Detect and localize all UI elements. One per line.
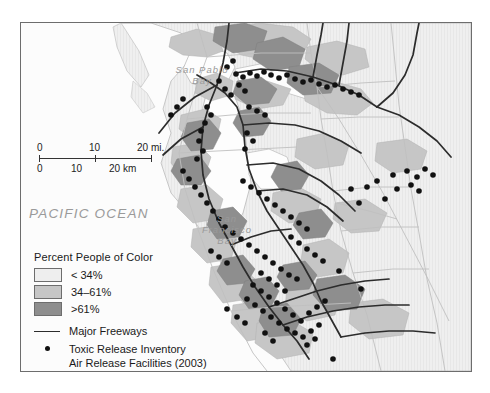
legend-label-high: >61% — [71, 303, 99, 315]
legend-facility-entry: Toxic Release Inventory Air Release Faci… — [34, 343, 249, 370]
scale-mi-0: 0 — [37, 142, 43, 153]
scale-km-0: 0 — [37, 163, 43, 174]
map-legend: Percent People of Color < 34% 34–61% >61… — [34, 251, 249, 370]
scale-bar-line — [37, 155, 161, 162]
scale-km-labels: 0 10 20 km — [37, 163, 161, 177]
freeway-line-icon — [34, 331, 60, 332]
legend-class-mid: 34–61% — [34, 285, 249, 299]
legend-freeway-entry: Major Freeways — [34, 325, 249, 337]
legend-class-low: < 34% — [34, 268, 249, 282]
map-figure: PACIFIC OCEAN San Pablo Bay San Francisc… — [0, 0, 490, 393]
legend-label-freeway: Major Freeways — [69, 325, 147, 337]
facility-dot-icon — [34, 343, 60, 351]
legend-label-low: < 34% — [71, 269, 103, 281]
scale-mi-10: 10 — [89, 142, 100, 153]
legend-class-high: >61% — [34, 302, 249, 316]
legend-facility-line1: Toxic Release Inventory — [69, 343, 186, 355]
scale-mi-20: 20 mi. — [137, 142, 164, 153]
legend-swatch-mid — [34, 285, 62, 299]
scale-bar: 0 10 20 mi. 0 10 20 km — [37, 142, 161, 177]
legend-label-facility: Toxic Release Inventory Air Release Faci… — [69, 343, 207, 370]
scale-miles-labels: 0 10 20 mi. — [37, 142, 161, 155]
scale-km-20: 20 km — [109, 163, 136, 174]
legend-swatch-high — [34, 302, 62, 316]
scale-km-10: 10 — [71, 163, 82, 174]
legend-title: Percent People of Color — [34, 251, 249, 263]
legend-swatch-low — [34, 268, 62, 282]
map-frame: PACIFIC OCEAN San Pablo Bay San Francisc… — [20, 22, 472, 372]
legend-facility-line2: Air Release Facilities (2003) — [69, 357, 207, 369]
legend-label-mid: 34–61% — [71, 286, 111, 298]
